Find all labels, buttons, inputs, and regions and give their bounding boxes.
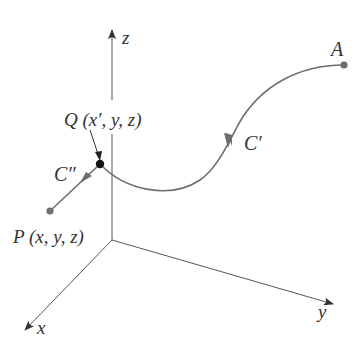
y-axis-label: y <box>316 301 327 322</box>
point-a <box>340 61 347 68</box>
diagram-svg: z x y A Q (x′, y, z) P (x, y, z) C′ C″ <box>0 0 359 360</box>
curve-c-double-prime-label: C″ <box>54 163 76 185</box>
y-axis <box>112 240 333 304</box>
point-a-label: A <box>329 38 344 60</box>
z-axis-label: z <box>121 27 130 48</box>
diagram-canvas: z x y A Q (x′, y, z) P (x, y, z) C′ C″ <box>0 0 359 360</box>
curve-c-prime-label: C′ <box>244 132 262 154</box>
q-pointer-arrowhead-icon <box>95 151 102 161</box>
point-q-label: Q (x′, y, z) <box>64 109 142 131</box>
point-p <box>46 207 53 214</box>
point-p-label: P (x, y, z) <box>12 226 84 248</box>
x-axis-label: x <box>36 317 46 338</box>
point-q <box>96 160 104 168</box>
